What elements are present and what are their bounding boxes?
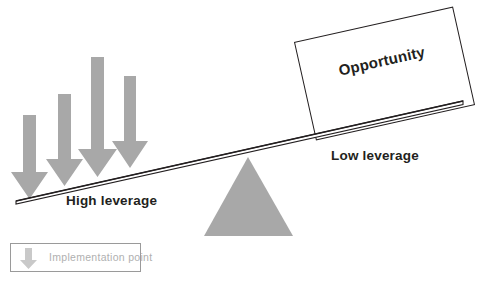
low-leverage-label: Low leverage: [331, 148, 419, 163]
diagram-canvas: Opportunity High leverage Low leverage I…: [0, 0, 497, 292]
high-leverage-label: High leverage: [66, 193, 157, 208]
legend-box: Implementation point: [10, 243, 141, 272]
down-arrow-icon: [19, 247, 39, 270]
legend-label: Implementation point: [49, 251, 152, 263]
